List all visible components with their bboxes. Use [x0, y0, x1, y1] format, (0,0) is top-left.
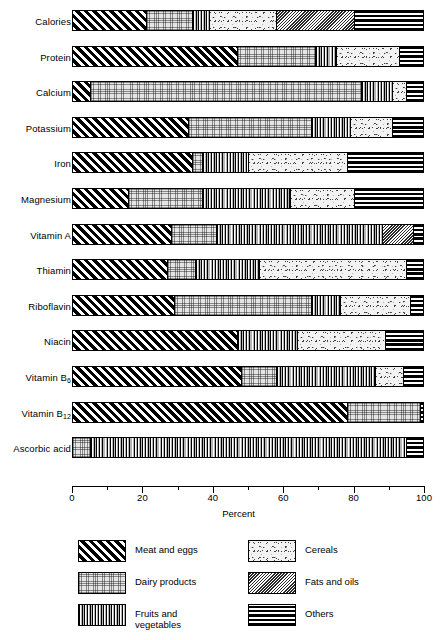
bar-segment: [168, 260, 196, 279]
legend-label: Others: [305, 604, 334, 619]
legend-item: Cereals: [248, 540, 338, 562]
x-axis-title-label: Percent: [222, 508, 255, 519]
bar-segment: [73, 367, 242, 386]
bar-segment: [400, 47, 424, 66]
bar-row: Potassium: [0, 115, 443, 141]
x-axis-minor-tick: [248, 486, 249, 490]
legend-swatch: [248, 572, 296, 594]
bar-segment: [238, 47, 315, 66]
bar-segment: [73, 403, 348, 422]
legend-label: Cereals: [305, 540, 338, 555]
bar-segment: [249, 153, 348, 172]
bar-segment: [196, 260, 259, 279]
bar-segment: [217, 225, 382, 244]
bar-segment: [411, 296, 424, 315]
legend-swatch: [248, 540, 296, 562]
bar-row-label: Iron: [54, 158, 71, 169]
bar-segment: [393, 118, 424, 137]
bar-segment: [147, 11, 193, 30]
bar-track: [72, 81, 424, 102]
bar-track: [72, 46, 424, 67]
bar-segment: [91, 82, 362, 101]
bar-segment: [73, 11, 147, 30]
legend-label: Dairy products: [135, 572, 196, 587]
bar-segment: [414, 225, 424, 244]
bar-segment: [341, 296, 411, 315]
bar-segment: [355, 11, 424, 30]
x-axis-title: Percent: [0, 508, 443, 519]
bar-row-label: Magnesium: [21, 194, 71, 205]
bar-segment: [73, 47, 238, 66]
bar-segment: [348, 153, 424, 172]
bar-segment: [175, 296, 312, 315]
bar-segment: [73, 118, 189, 137]
bar-row-label: Vitamin A: [30, 229, 71, 240]
bar-segment: [351, 118, 393, 137]
bar-row-label: Calories: [35, 16, 71, 27]
bar-segment: [386, 331, 424, 350]
bar-row: Vitamin A: [0, 222, 443, 248]
x-axis-tick-label: 60: [278, 492, 289, 503]
legend-item: Dairy products: [78, 572, 196, 594]
legend-item: Meat and eggs: [78, 540, 198, 562]
legend-label: Fats and oils: [305, 572, 359, 587]
bar-segment: [260, 260, 408, 279]
bar-row-label: Calcium: [36, 87, 71, 98]
bar-row-label: Vitamin B12: [22, 407, 71, 418]
legend-swatch: [78, 604, 126, 626]
bar-segment: [298, 331, 386, 350]
bar-segment: [238, 331, 298, 350]
bar-segment: [393, 82, 407, 101]
bar-track: [72, 330, 424, 351]
bar-row: Riboflavin: [0, 293, 443, 319]
bar-row: Thiamin: [0, 257, 443, 283]
legend-swatch: [248, 604, 296, 626]
legend-item: Fruits and vegetables: [78, 604, 181, 630]
bar-segment: [291, 189, 354, 208]
bar-segment: [277, 11, 354, 30]
x-axis-minor-tick: [389, 486, 390, 490]
bar-row: Calories: [0, 8, 443, 34]
bar-track: [72, 224, 424, 245]
bar-segment: [91, 438, 408, 457]
stacked-bar-chart: CaloriesProteinCalciumPotassiumIronMagne…: [0, 0, 443, 640]
bar-segment: [407, 260, 424, 279]
bar-segment: [355, 189, 424, 208]
bar-track: [72, 295, 424, 316]
bar-segment: [407, 82, 424, 101]
bar-segment: [193, 153, 204, 172]
bar-row: Protein: [0, 44, 443, 70]
bar-segment: [348, 403, 422, 422]
bar-row: Vitamin B12: [0, 400, 443, 426]
bar-row-label: Riboflavin: [28, 300, 71, 311]
chart-legend: Meat and eggsDairy productsFruits and ve…: [0, 538, 443, 634]
bar-segment: [362, 82, 394, 101]
x-axis-tick-label: 20: [137, 492, 148, 503]
bar-segment: [73, 438, 91, 457]
bar-segment: [421, 403, 424, 422]
bar-segment: [203, 189, 291, 208]
bar-row: Calcium: [0, 79, 443, 105]
bar-row: Niacin: [0, 328, 443, 354]
bar-segment: [210, 11, 277, 30]
bar-segment: [312, 296, 340, 315]
bar-track: [72, 259, 424, 280]
x-axis-minor-tick: [178, 486, 179, 490]
bar-row-label: Niacin: [44, 336, 71, 347]
bar-track: [72, 437, 424, 458]
bar-segment: [203, 153, 249, 172]
bar-segment: [73, 189, 129, 208]
bar-row-label: Potassium: [26, 122, 71, 133]
x-axis-tick-label: 0: [69, 492, 74, 503]
bar-row-label: Protein: [40, 51, 71, 62]
bar-segment: [242, 367, 277, 386]
bar-segment: [312, 118, 351, 137]
bar-segment: [172, 225, 218, 244]
chart-plot-area: CaloriesProteinCalciumPotassiumIronMagne…: [0, 0, 443, 478]
bar-row-label: Thiamin: [37, 265, 72, 276]
bar-track: [72, 366, 424, 387]
bar-segment: [189, 118, 312, 137]
bar-row: Ascorbic acid: [0, 435, 443, 461]
bar-row-label: Ascorbic acid: [13, 443, 71, 454]
bar-segment: [73, 331, 238, 350]
